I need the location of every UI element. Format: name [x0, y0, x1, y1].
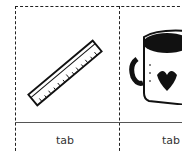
- label-divider: [15, 122, 182, 123]
- ruler-icon: [20, 20, 110, 114]
- card-label: tab: [162, 134, 180, 147]
- cut-line-left: [15, 6, 16, 151]
- cut-line-middle: [119, 6, 120, 151]
- mug-icon: [127, 25, 182, 109]
- card-label: tab: [56, 134, 74, 147]
- cut-line-top: [15, 6, 182, 7]
